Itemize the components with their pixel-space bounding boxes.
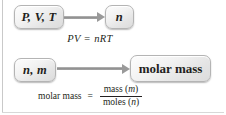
- fraction-numerator-close: ): [135, 84, 138, 94]
- fraction-denominator-close: ): [136, 97, 139, 107]
- fraction-denominator-text: moles (: [103, 97, 131, 107]
- node-molar-mass: molar mass: [130, 55, 211, 82]
- right-arrow-icon-molar-mass: [57, 66, 130, 71]
- node-molar-mass-label: molar mass: [139, 62, 203, 75]
- equation-molar-mass-fraction: mass (m) moles (n): [100, 84, 142, 108]
- arrow-head: [122, 64, 130, 74]
- arrow-shaft: [64, 16, 98, 19]
- fraction-numerator-text: mass (: [104, 84, 129, 94]
- arrow-head: [97, 12, 105, 22]
- frame-left-rule: [2, 0, 3, 112]
- equation-ideal-gas-law-text: PV = nRT: [67, 33, 113, 44]
- frame-bottom-rule: [2, 112, 224, 113]
- node-moles: n: [105, 5, 134, 29]
- node-n-label: n: [116, 11, 123, 24]
- arrow-shaft: [57, 67, 123, 70]
- node-nm-label: n, m: [23, 64, 47, 77]
- node-pressure-volume-temperature: P, V, T: [14, 5, 64, 29]
- equation-ideal-gas-law: PV = nRT: [0, 33, 180, 44]
- figure-container: P, V, T n PV = nRT n, m molar mass molar…: [0, 0, 226, 115]
- equation-molar-mass: molar mass = mass (m) moles (n): [38, 84, 142, 108]
- right-arrow-icon-gas-law: [64, 15, 105, 20]
- fraction-numerator: mass (m): [101, 84, 142, 96]
- fraction-denominator: moles (n): [100, 97, 142, 109]
- node-moles-and-mass: n, m: [14, 58, 56, 82]
- equation-molar-mass-lhs: molar mass: [38, 91, 88, 101]
- equation-molar-mass-operator: =: [88, 91, 100, 101]
- node-pvt-label: P, V, T: [22, 11, 57, 24]
